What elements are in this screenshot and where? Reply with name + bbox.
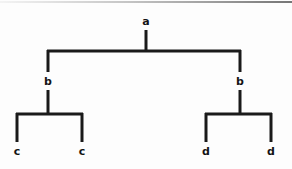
node-label-c-right: c bbox=[79, 146, 86, 157]
node-label-root: a bbox=[142, 16, 149, 27]
node-label-c-left: c bbox=[14, 146, 21, 157]
node-label-b-left: b bbox=[44, 76, 52, 87]
tree-diagram-canvas: a b b c c d d bbox=[0, 0, 292, 169]
node-label-d-left: d bbox=[202, 146, 210, 157]
node-label-d-right: d bbox=[267, 146, 275, 157]
node-label-b-right: b bbox=[236, 76, 244, 87]
